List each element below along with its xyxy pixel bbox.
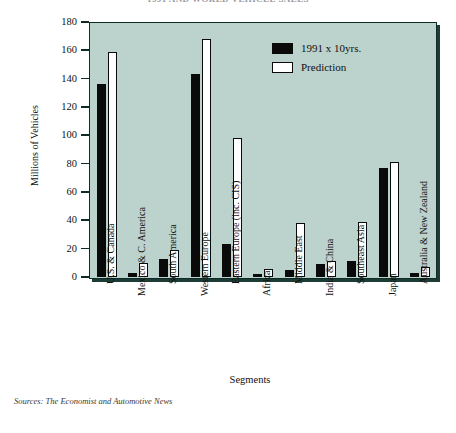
- x-axis-title-text: Segments: [230, 374, 271, 385]
- x-axis-label: Middle East: [294, 235, 304, 284]
- y-tick-mark: [81, 134, 89, 136]
- x-axis-label: Western Europe: [200, 232, 210, 296]
- y-tick-mark: [81, 219, 89, 221]
- source-note: Sources: The Economist and Automotive Ne…: [14, 396, 172, 406]
- x-axis-label: India & China: [325, 239, 335, 296]
- legend-item: Prediction: [272, 61, 361, 73]
- y-tick-mark: [81, 191, 89, 193]
- x-axis-label: Mexico & C. America: [137, 207, 147, 296]
- x-axis-label: Africa: [262, 270, 272, 296]
- y-tick-label: 100: [37, 129, 77, 141]
- x-axis-label: Eastern Europe (inc. CIS): [231, 181, 241, 284]
- y-tick-0: 0: [0, 271, 89, 283]
- legend-swatch-actual: [272, 43, 293, 54]
- y-tick-label: 80: [37, 158, 77, 170]
- y-tick-20: 20: [0, 243, 89, 255]
- y-tick-140: 140: [0, 73, 89, 85]
- legend-swatch-prediction: [272, 62, 293, 73]
- y-tick-mark: [81, 248, 89, 250]
- x-axis-label: Southeast Asia: [356, 225, 366, 284]
- x-axis-label: Australia & New Zealand: [419, 181, 429, 284]
- y-tick-120: 120: [0, 101, 89, 113]
- y-tick-mark: [81, 78, 89, 80]
- chart-figure: 1991 AND WORLD VEHICLE SALES Millions of…: [0, 0, 456, 433]
- legend-item: 1991 x 10yrs.: [272, 42, 361, 54]
- y-tick-160: 160: [0, 44, 89, 56]
- y-axis-ticks: 020406080100120140160180: [0, 0, 89, 300]
- y-tick-80: 80: [0, 158, 89, 170]
- y-tick-40: 40: [0, 214, 89, 226]
- y-tick-label: 20: [37, 243, 77, 255]
- y-tick-mark: [81, 49, 89, 51]
- bar-actual: [379, 168, 388, 277]
- legend: 1991 x 10yrs.Prediction: [272, 42, 361, 80]
- y-tick-100: 100: [0, 129, 89, 141]
- bar-prediction: [390, 162, 399, 277]
- y-tick-180: 180: [0, 16, 89, 28]
- y-tick-mark: [81, 106, 89, 108]
- y-tick-mark: [81, 21, 89, 23]
- x-axis-label: U.S. & Canada: [106, 223, 116, 284]
- x-axis-label: South America: [168, 224, 178, 284]
- legend-label: 1991 x 10yrs.: [301, 42, 361, 54]
- y-tick-label: 140: [37, 73, 77, 85]
- y-tick-mark: [81, 163, 89, 165]
- y-tick-60: 60: [0, 186, 89, 198]
- bar-group: [376, 22, 407, 277]
- y-tick-label: 60: [37, 186, 77, 198]
- x-axis-label: Japan: [388, 273, 398, 296]
- x-axis-title: Segments: [0, 374, 456, 385]
- y-tick-label: 160: [37, 44, 77, 56]
- legend-label: Prediction: [301, 61, 346, 73]
- y-tick-label: 120: [37, 101, 77, 113]
- y-tick-label: 180: [37, 16, 77, 28]
- y-tick-label: 0: [37, 271, 77, 283]
- y-tick-mark: [81, 276, 89, 278]
- y-tick-label: 40: [37, 214, 77, 226]
